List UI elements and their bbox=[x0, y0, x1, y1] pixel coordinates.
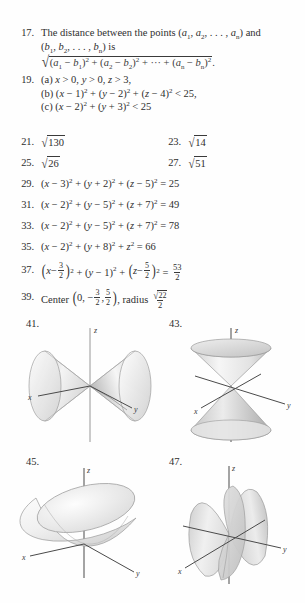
square-root-icon: √14 bbox=[188, 135, 207, 150]
fraction-3-2: 32 bbox=[58, 261, 64, 280]
answer-number: 31. bbox=[8, 198, 34, 211]
answer-number: 39. bbox=[8, 288, 34, 303]
figure-45-graphic: z x y bbox=[14, 460, 154, 598]
figure-47-graphic: z x y bbox=[161, 460, 301, 598]
answer-23: 23. √14 bbox=[155, 135, 207, 150]
z-axis-label: z bbox=[93, 326, 98, 335]
answer-body: Center (0, −32, 52), radius √222 bbox=[41, 288, 169, 310]
elliptic-paraboloid-svg: z x y bbox=[14, 460, 154, 598]
square-root-icon: √130 bbox=[41, 135, 65, 150]
fraction-5-2: 52 bbox=[105, 288, 111, 307]
fraction-5-2: 52 bbox=[144, 261, 150, 280]
answer-number: 35. bbox=[8, 240, 34, 253]
answers-page: 17. The distance between the points (a1,… bbox=[0, 0, 305, 603]
answer-number: 37. bbox=[8, 260, 34, 276]
center-coordinates: (0, −32, 52) bbox=[72, 288, 118, 307]
answer-35: 35. (x − 2)2 + (y + 8)2 + z2 = 66 bbox=[8, 240, 156, 254]
answer-number: 21. bbox=[8, 135, 34, 148]
radicand: 14 bbox=[194, 135, 207, 150]
answer-number: 27. bbox=[155, 156, 181, 169]
double-cone-along-y-axis-svg: z x y bbox=[14, 324, 154, 446]
radicand: 130 bbox=[47, 135, 65, 150]
answer-17-line-2: (b1, b2, . . . , bn) is bbox=[41, 40, 261, 54]
answer-body: √51 bbox=[188, 156, 207, 171]
answer-body: The distance between the points (a1, a2,… bbox=[41, 26, 261, 53]
figure-41: 41. bbox=[8, 318, 153, 448]
figure-47: 47. bbox=[155, 452, 300, 600]
answer-number: 19. bbox=[8, 73, 34, 86]
figure-45: 45. z bbox=[8, 452, 153, 600]
z-axis-label: z bbox=[231, 464, 236, 473]
square-root-icon: √(a1 − b1)2 + (a2 − b2)2 + ··· + (an − b… bbox=[41, 52, 212, 70]
answer-body: (x − 32)2 + (y − 1)2 + (z − 52)2 = 532 bbox=[41, 260, 184, 283]
answer-25: 25. √26 bbox=[8, 156, 60, 171]
fraction-53-2: 532 bbox=[172, 263, 183, 282]
answer-body: √130 bbox=[41, 135, 65, 150]
answer-27: 27. √51 bbox=[155, 156, 207, 171]
y-axis-label: y bbox=[282, 545, 287, 554]
term-x: (x − 32)2 bbox=[41, 261, 74, 280]
answer-number: 33. bbox=[8, 219, 34, 232]
answer-body: √26 bbox=[41, 156, 60, 171]
y-axis-label: y bbox=[133, 405, 138, 414]
square-root-icon: √26 bbox=[41, 156, 60, 171]
radius-label: radius bbox=[123, 294, 149, 305]
answer-19-part-c: (c) (x − 2)2 + (y + 3)2 < 25 bbox=[41, 100, 197, 114]
radicand: 26 bbox=[47, 156, 60, 171]
answer-body: (x − 2)2 + (y − 5)2 + (z + 7)2 = 49 bbox=[41, 198, 179, 212]
answer-17-formula: √(a1 − b1)2 + (a2 − b2)2 + ··· + (an − b… bbox=[41, 52, 291, 70]
center-label: Center bbox=[41, 294, 69, 305]
answer-19-part-b: (b) (x − 1)2 + (y − 2)2 + (z − 4)2 < 25, bbox=[41, 87, 197, 101]
answer-body: (x − 3)2 + (y + 2)2 + (z − 5)2 = 25 bbox=[41, 177, 179, 191]
answer-21: 21. √130 bbox=[8, 135, 65, 150]
hyperbolic-paraboloid-svg: z x y bbox=[161, 460, 301, 598]
z-axis-label: z bbox=[234, 326, 239, 335]
answer-33: 33. (x − 2)2 + (y − 5)2 + (z + 7)2 = 78 bbox=[8, 219, 179, 233]
answer-body: √14 bbox=[188, 135, 207, 150]
x-axis-label: x bbox=[193, 407, 198, 416]
answer-29: 29. (x − 3)2 + (y + 2)2 + (z − 5)2 = 25 bbox=[8, 177, 179, 191]
answer-body: (a) x > 0, y > 0, z > 3, (b) (x − 1)2 + … bbox=[41, 73, 197, 114]
y-axis-label: y bbox=[135, 569, 140, 578]
answer-17: 17. The distance between the points (a1,… bbox=[8, 26, 298, 53]
x-axis-label: x bbox=[21, 553, 26, 562]
radius-fraction: √222 bbox=[152, 290, 169, 310]
answer-19: 19. (a) x > 0, y > 0, z > 3, (b) (x − 1)… bbox=[8, 73, 298, 114]
answer-number: 29. bbox=[8, 177, 34, 190]
answer-37: 37. (x − 32)2 + (y − 1)2 + (z − 52)2 = 5… bbox=[8, 260, 184, 283]
answer-17-line-1: The distance between the points (a1, a2,… bbox=[41, 26, 261, 40]
answer-number: 23. bbox=[155, 135, 181, 148]
term-z: (z − 52)2 bbox=[128, 261, 160, 280]
radicand: 51 bbox=[194, 156, 207, 171]
figure-43: 43. bbox=[155, 318, 300, 448]
answer-number: 17. bbox=[8, 26, 34, 39]
square-root-icon: √22 bbox=[153, 290, 168, 300]
figure-41-graphic: z x y bbox=[14, 324, 154, 446]
answer-19-part-a: (a) x > 0, y > 0, z > 3, bbox=[41, 73, 197, 87]
square-root-icon: √51 bbox=[188, 156, 207, 171]
answer-39: 39. Center (0, −32, 52), radius √222 bbox=[8, 288, 169, 310]
y-axis-label: y bbox=[286, 401, 291, 410]
answer-31: 31. (x − 2)2 + (y − 5)2 + (z + 7)2 = 49 bbox=[8, 198, 179, 212]
z-axis-label: z bbox=[86, 466, 91, 475]
x-axis-label: x bbox=[27, 393, 32, 402]
x-axis-label: x bbox=[177, 567, 182, 576]
answer-body: (x − 2)2 + (y − 5)2 + (z + 7)2 = 78 bbox=[41, 219, 179, 233]
fraction-3-2: 32 bbox=[94, 288, 100, 307]
double-cone-along-z-axis-svg: z x y bbox=[161, 324, 301, 446]
answer-number: 25. bbox=[8, 156, 34, 169]
answer-body: (x − 2)2 + (y + 8)2 + z2 = 66 bbox=[41, 240, 156, 254]
figure-43-graphic: z x y bbox=[161, 324, 301, 446]
